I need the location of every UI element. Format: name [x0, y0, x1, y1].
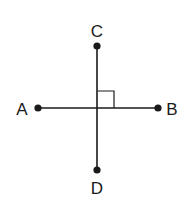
point-b-dot — [154, 104, 161, 111]
point-a-dot — [34, 104, 41, 111]
right-angle-marker — [98, 91, 114, 108]
label-c: C — [91, 22, 103, 41]
point-d-dot — [93, 166, 100, 173]
label-d: D — [91, 179, 103, 198]
label-a: A — [16, 100, 28, 119]
label-b: B — [166, 100, 177, 119]
perpendicular-lines-diagram: A B C D — [0, 0, 186, 205]
point-c-dot — [93, 42, 100, 49]
